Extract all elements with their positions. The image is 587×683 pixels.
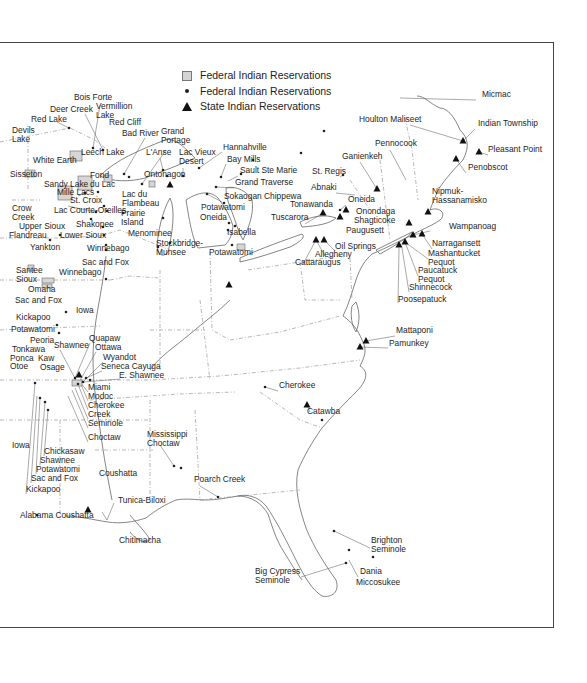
reservation-label: Sac and Fox bbox=[31, 474, 78, 483]
reservation-label: Sisseton bbox=[10, 170, 42, 179]
state-reservation-marker bbox=[453, 155, 460, 162]
federal-land-marker bbox=[149, 181, 155, 187]
reservation-label: Lac Courte-Oreilles bbox=[54, 206, 126, 215]
federal-point-marker bbox=[97, 191, 100, 194]
legend-label: Federal Indian Reservations bbox=[200, 84, 331, 100]
reservation-label: Santee Sioux bbox=[16, 266, 43, 285]
federal-point-marker bbox=[333, 530, 336, 533]
reservation-label: St. Croix bbox=[70, 196, 102, 205]
reservation-label: Winnebago bbox=[87, 244, 129, 253]
state-reservation-marker bbox=[402, 238, 409, 245]
reservation-label: Tuscarora bbox=[271, 213, 308, 222]
reservation-label: Kickapoo bbox=[26, 485, 60, 494]
federal-point-marker bbox=[321, 419, 324, 422]
reservation-label: Osage bbox=[40, 363, 65, 372]
federal-point-marker bbox=[56, 324, 59, 327]
federal-point-marker bbox=[34, 382, 37, 385]
reservation-label: Stockbridge- Munsee bbox=[156, 239, 203, 258]
reservation-label: Lac Vieux Desert bbox=[179, 148, 216, 167]
reservation-label: Lac du Flambeau bbox=[122, 190, 159, 209]
reservation-label: Hannahville bbox=[223, 143, 267, 152]
federal-point-marker bbox=[47, 409, 50, 412]
federal-point-marker bbox=[180, 467, 183, 470]
reservation-label: Menominee bbox=[128, 229, 172, 238]
reservation-label: Chitimacha bbox=[119, 536, 161, 545]
reservation-label: Houlton Maliseet bbox=[359, 115, 421, 124]
state-reservation-marker bbox=[374, 185, 381, 192]
reservation-label: Oneida bbox=[348, 195, 375, 204]
reservation-label: Crow Creek bbox=[12, 204, 34, 223]
reservation-label: Oneida bbox=[200, 213, 227, 222]
reservation-label: Prairie Island bbox=[121, 209, 145, 228]
federal-land-marker bbox=[72, 380, 82, 386]
legend-label: State Indian Reservations bbox=[200, 99, 320, 115]
federal-point-marker bbox=[372, 556, 375, 559]
reservation-label: Flandreau bbox=[9, 231, 47, 240]
reservation-label: Bay Mills bbox=[227, 155, 261, 164]
reservation-label: Nipmuk- Hassanamisko bbox=[432, 187, 487, 206]
federal-point-marker bbox=[215, 186, 218, 189]
federal-point-marker bbox=[39, 397, 42, 400]
federal-point-marker bbox=[141, 183, 144, 186]
reservation-label: Shawnee bbox=[54, 341, 89, 350]
legend-federal-land: Federal Indian Reservations bbox=[180, 68, 331, 84]
reservation-label: Grand Portage bbox=[161, 127, 190, 146]
reservation-label: Tunica-Biloxi bbox=[118, 496, 166, 505]
reservation-label: Sac and Fox bbox=[15, 296, 62, 305]
legend-label: Federal Indian Reservations bbox=[200, 68, 331, 84]
federal-point-marker bbox=[89, 379, 92, 382]
reservation-label: Bad River bbox=[122, 129, 159, 138]
reservation-label: Yankton bbox=[30, 243, 60, 252]
reservation-label: Miccosukee bbox=[356, 578, 400, 587]
reservation-label: Penobscot bbox=[468, 163, 508, 172]
reservation-label: Red Lake bbox=[31, 115, 67, 124]
reservation-label: Dania bbox=[360, 567, 382, 576]
reservation-label: Alabama Coushatta bbox=[20, 511, 94, 520]
state-reservation-marker bbox=[167, 181, 174, 188]
state-reservation-marker bbox=[406, 219, 413, 226]
reservation-label: Pamunkey bbox=[389, 339, 429, 348]
reservation-label: Devils Lake bbox=[12, 126, 35, 145]
reservation-label: Shakopee bbox=[76, 220, 114, 229]
federal-point-marker bbox=[231, 244, 234, 247]
state-reservation-marker bbox=[321, 236, 328, 243]
reservation-label: St. Regis bbox=[312, 167, 346, 176]
state-reservation-marker bbox=[337, 213, 344, 220]
reservation-label: Potawatomi bbox=[209, 248, 253, 257]
reservation-label: Ontonagon bbox=[144, 170, 185, 179]
reservation-label: Pennocook bbox=[375, 139, 417, 148]
reservation-label: Leech Lake bbox=[81, 148, 124, 157]
reservation-label: Omaha bbox=[28, 285, 55, 294]
federal-point-marker bbox=[128, 176, 131, 179]
reservation-label: Ganienkeh bbox=[342, 152, 383, 161]
federal-point-marker bbox=[77, 383, 80, 386]
reservation-label: Mississippi Choctaw bbox=[147, 430, 188, 449]
reservation-label: Brighton Seminole bbox=[371, 536, 406, 555]
federal-point-marker bbox=[206, 193, 209, 196]
reservation-label: Red Cliff bbox=[109, 118, 141, 127]
reservation-label: Sault Ste Marie bbox=[240, 166, 297, 175]
reservation-label: White Earth bbox=[33, 156, 77, 165]
reservation-label: L'Anse bbox=[146, 148, 171, 157]
gray-square-icon bbox=[180, 71, 194, 81]
map-legend: Federal Indian Reservations Federal Indi… bbox=[180, 68, 331, 115]
federal-point-marker bbox=[162, 217, 165, 220]
state-reservation-marker bbox=[313, 236, 320, 243]
federal-land-marker bbox=[42, 278, 54, 283]
state-reservation-marker bbox=[476, 148, 483, 155]
federal-point-marker bbox=[228, 222, 231, 225]
federal-point-marker bbox=[65, 311, 68, 314]
reservation-label: Kickapoo bbox=[16, 313, 50, 322]
reservation-label: Grand Traverse bbox=[235, 178, 293, 187]
reservation-label: Cherokee bbox=[279, 381, 315, 390]
federal-point-marker bbox=[58, 332, 61, 335]
reservation-label: Otoe bbox=[10, 362, 28, 371]
reservation-label: Tonawanda bbox=[290, 200, 333, 209]
reservation-label: Iowa bbox=[76, 306, 94, 315]
federal-point-marker bbox=[68, 127, 71, 130]
federal-point-marker bbox=[339, 209, 342, 212]
reservation-label: Abnaki bbox=[311, 183, 337, 192]
federal-point-marker bbox=[105, 278, 108, 281]
federal-point-marker bbox=[220, 176, 223, 179]
triangle-icon bbox=[180, 102, 194, 111]
